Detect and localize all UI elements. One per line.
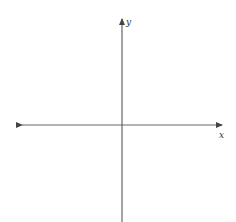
- x-axis-label: x: [219, 131, 224, 140]
- coordinate-plane: y x: [0, 0, 236, 222]
- axes-drawing: [0, 0, 236, 222]
- y-axis-label: y: [126, 18, 131, 27]
